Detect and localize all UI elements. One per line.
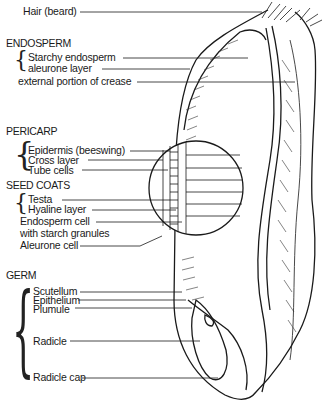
brace-icon: { (14, 48, 28, 72)
label-with-starch-granules: with starch granules (20, 228, 109, 239)
label-tube-cells: Tube cells (28, 165, 73, 176)
label-aleurone-cell: Aleurone cell (20, 240, 78, 251)
label-radicle: Radicle (33, 336, 67, 347)
label-radicle-cap: Radicle cap (33, 372, 86, 383)
label-plumule: Plumule (33, 304, 70, 315)
brace-icon: { (14, 191, 28, 215)
label-aleurone-layer: aleurone layer (28, 63, 92, 74)
label-hyaline-layer: Hyaline layer (28, 204, 86, 215)
label-endosperm-cell: Endosperm cell (20, 216, 90, 227)
label-external-crease: external portion of crease (18, 76, 131, 87)
label-hair-beard: Hair (beard) (23, 6, 77, 17)
brace-icon: { (12, 278, 34, 382)
